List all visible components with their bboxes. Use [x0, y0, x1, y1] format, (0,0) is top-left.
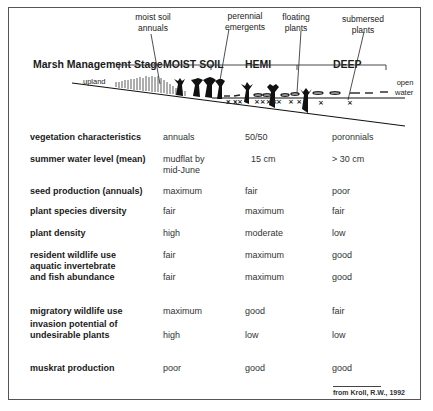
cell-moist-soil: poor	[163, 363, 181, 374]
cell-hemi: moderate	[245, 228, 283, 239]
svg-text:××××: ××××	[254, 98, 277, 106]
row-label: aquatic invertebrate and fish abundance	[30, 261, 116, 283]
cell-moist-soil: fair	[163, 206, 176, 217]
svg-text:×: ×	[237, 98, 243, 106]
svg-text:×: ×	[318, 99, 324, 107]
row-label: plant density	[30, 228, 86, 239]
cell-moist-soil: fair	[163, 272, 176, 283]
emergent-plant	[191, 78, 203, 97]
row-label: resident wildlife use	[30, 250, 116, 261]
cell-deep: fair	[332, 306, 345, 317]
cell-moist-soil: maximum	[163, 306, 202, 317]
cell-deep: good	[332, 272, 352, 283]
leader-floating	[297, 31, 301, 93]
cell-moist-soil: annuals	[163, 132, 195, 143]
cell-moist-soil: high	[163, 330, 180, 341]
row-label: migratory wildlife use	[30, 306, 123, 317]
cell-hemi: fair	[245, 186, 258, 197]
cell-hemi: maximum	[245, 272, 284, 283]
row-label: invasion potential of undesirable plants	[30, 319, 118, 341]
cell-deep: good	[332, 250, 352, 261]
svg-text:×: ×	[276, 98, 282, 106]
cell-hemi: good	[245, 306, 265, 317]
cell-hemi: 15 cm	[251, 154, 276, 165]
cell-moist-soil: fair	[163, 250, 176, 261]
row-label: muskrat production	[30, 363, 115, 374]
emergent-plant	[203, 77, 216, 98]
source-citation: from Kroll, R.W., 1992	[333, 389, 405, 396]
cell-hemi: maximum	[245, 206, 284, 217]
source-divider	[333, 386, 381, 387]
cell-hemi: good	[245, 363, 265, 374]
cell-deep: > 30 cm	[332, 154, 364, 165]
cell-deep: poronnials	[332, 132, 374, 143]
cell-hemi: maximum	[245, 250, 284, 261]
row-label: plant species diversity	[30, 206, 127, 217]
leader-perennial	[219, 29, 229, 86]
stage-bracket	[119, 65, 386, 70]
svg-text:×: ×	[347, 99, 353, 107]
cell-deep: fair	[332, 206, 345, 217]
marsh-profile-diagram: x x × ×××× × × × × ×	[0, 0, 433, 130]
row-label: summer water level (mean)	[30, 154, 146, 165]
cell-moist-soil: mudflat by mid-June	[163, 154, 205, 176]
emergent-plant	[215, 79, 225, 99]
cell-moist-soil: high	[163, 228, 180, 239]
row-label: seed production (annuals)	[30, 186, 143, 197]
cell-hemi: 50/50	[245, 132, 268, 143]
cell-hemi: low	[245, 330, 259, 341]
leader-submersed	[348, 32, 364, 100]
cell-deep: low	[332, 330, 346, 341]
cell-moist-soil: maximum	[163, 186, 202, 197]
row-label: vegetation characteristics	[30, 132, 141, 143]
cell-deep: low	[332, 228, 346, 239]
svg-text:× ×: × ×	[288, 98, 302, 106]
cell-deep: good	[332, 363, 352, 374]
cell-deep: poor	[332, 186, 350, 197]
